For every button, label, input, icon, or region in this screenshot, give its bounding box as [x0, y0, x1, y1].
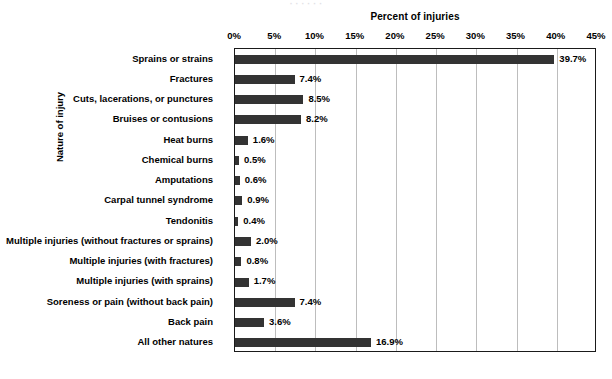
bar	[235, 196, 242, 205]
bar-value-label: 1.7%	[254, 275, 276, 286]
bar-value-label: 39.7%	[559, 53, 586, 64]
x-tick-label: 25%	[426, 30, 445, 41]
bar-row: Bruises or contusions8.2%	[235, 110, 595, 130]
bar-value-label: 7.4%	[300, 296, 322, 307]
bar-value-label: 0.6%	[245, 174, 267, 185]
bar-row: Tendonitis0.4%	[235, 211, 595, 231]
category-label: Amputations	[0, 174, 213, 185]
bar-row: Cuts, lacerations, or punctures8.5%	[235, 90, 595, 110]
bar	[235, 75, 295, 84]
bar-row: Heat burns1.6%	[235, 130, 595, 150]
bar-row: Carpal tunnel syndrome0.9%	[235, 191, 595, 211]
bar-row: Back pain3.6%	[235, 312, 595, 332]
bar-row: Multiple injuries (without fractures or …	[235, 231, 595, 251]
bar-value-label: 0.8%	[246, 255, 268, 266]
bar-value-label: 7.4%	[300, 73, 322, 84]
bar	[235, 136, 248, 145]
bar-value-label: 8.5%	[308, 93, 330, 104]
category-label: Soreness or pain (without back pain)	[0, 296, 213, 307]
category-label: All other natures	[0, 336, 213, 347]
bar-value-label: 8.2%	[306, 113, 328, 124]
bar-row: All other natures16.9%	[235, 333, 595, 353]
bar-value-label: 1.6%	[253, 134, 275, 145]
bar	[235, 156, 239, 165]
bar-row: Fractures7.4%	[235, 69, 595, 89]
category-label: Multiple injuries (without fractures or …	[0, 235, 213, 246]
category-label: Carpal tunnel syndrome	[0, 194, 213, 205]
bar-row: Soreness or pain (without back pain)7.4%	[235, 292, 595, 312]
bar-rows: Sprains or strains39.7%Fractures7.4%Cuts…	[235, 49, 595, 351]
clipped-header-text: · · · · · ·	[0, 0, 612, 9]
x-tick-label: 40%	[546, 30, 565, 41]
horizontal-bar-chart: · · · · · · Percent of injuries 0%5%10%1…	[0, 0, 612, 379]
category-label: Multiple injuries (with fractures)	[0, 255, 213, 266]
bar	[235, 176, 240, 185]
x-tick-label: 5%	[267, 30, 281, 41]
bar-row: Sprains or strains39.7%	[235, 49, 595, 69]
bar-value-label: 3.6%	[269, 316, 291, 327]
x-axis-tick-labels: 0%5%10%15%20%25%30%35%40%45%	[234, 30, 596, 43]
x-tick-label: 30%	[466, 30, 485, 41]
category-label: Tendonitis	[0, 215, 213, 226]
bar	[235, 278, 249, 287]
category-label: Fractures	[0, 73, 213, 84]
category-label: Cuts, lacerations, or punctures	[0, 93, 213, 104]
bar	[235, 338, 371, 347]
bar	[235, 55, 554, 64]
bar	[235, 298, 295, 307]
bar-value-label: 16.9%	[376, 336, 403, 347]
bar-value-label: 0.5%	[244, 154, 266, 165]
category-label: Chemical burns	[0, 154, 213, 165]
bar-row: Chemical burns0.5%	[235, 150, 595, 170]
bar	[235, 217, 238, 226]
category-label: Back pain	[0, 316, 213, 327]
category-label: Heat burns	[0, 134, 213, 145]
bar-value-label: 0.4%	[243, 215, 265, 226]
bar	[235, 237, 251, 246]
x-tick-label: 0%	[227, 30, 241, 41]
category-label: Multiple injuries (with sprains)	[0, 275, 213, 286]
bar-value-label: 0.9%	[247, 194, 269, 205]
x-tick-label: 35%	[506, 30, 525, 41]
y-axis-title: Nature of injury	[54, 72, 68, 182]
plot-area: Sprains or strains39.7%Fractures7.4%Cuts…	[234, 48, 596, 352]
bar	[235, 115, 301, 124]
x-tick-label: 20%	[385, 30, 404, 41]
bar-value-label: 2.0%	[256, 235, 278, 246]
bar-row: Multiple injuries (with fractures)0.8%	[235, 252, 595, 272]
category-label: Bruises or contusions	[0, 113, 213, 124]
x-tick-label: 10%	[305, 30, 324, 41]
x-tick-label: 45%	[586, 30, 605, 41]
bar-row: Amputations0.6%	[235, 171, 595, 191]
chart-title: Percent of injuries	[234, 11, 596, 22]
bar	[235, 257, 241, 266]
bar	[235, 95, 303, 104]
category-label: Sprains or strains	[0, 53, 213, 64]
bar	[235, 318, 264, 327]
x-tick-label: 15%	[345, 30, 364, 41]
bar-row: Multiple injuries (with sprains)1.7%	[235, 272, 595, 292]
